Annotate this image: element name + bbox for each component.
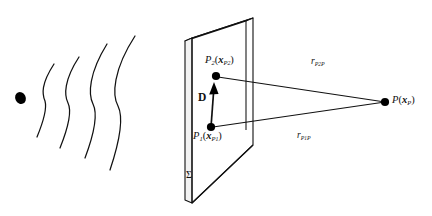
wavefront-arc-4: [110, 36, 135, 170]
label-r1-tail: P: [307, 135, 311, 141]
wavefront-arc-group: [37, 36, 135, 170]
secondary-source-point-p2: [212, 72, 220, 80]
wavefront-arc-1: [37, 64, 54, 137]
label-point-p2: P2(xP2): [205, 55, 234, 67]
aperture-plane-sigma: [185, 18, 253, 203]
label-ray-r-p2-p: rP2P: [311, 57, 325, 68]
plane-front-face: [192, 18, 253, 203]
observation-point-p: [381, 98, 389, 106]
wavefront-diffraction-diagram: P2(xP2) P1(xP1) P(xP) D Σ rP2P rP1P: [0, 0, 432, 216]
label-d-text: D: [198, 91, 206, 103]
label-sigma: Σ: [186, 170, 192, 180]
label-vector-d: D: [198, 92, 206, 104]
label-r2-tail: P: [321, 61, 325, 67]
wavefront-arc-3: [85, 44, 107, 158]
point-source-blob: [13, 90, 28, 106]
label-point-p: P(xP): [392, 95, 415, 107]
label-ray-r-p1-p: rP1P: [297, 131, 311, 142]
diagram-canvas: [0, 0, 432, 216]
label-point-p1: P1(xP1): [193, 131, 222, 143]
label-sigma-text: Σ: [186, 169, 192, 180]
wavefront-arc-2: [60, 57, 79, 148]
